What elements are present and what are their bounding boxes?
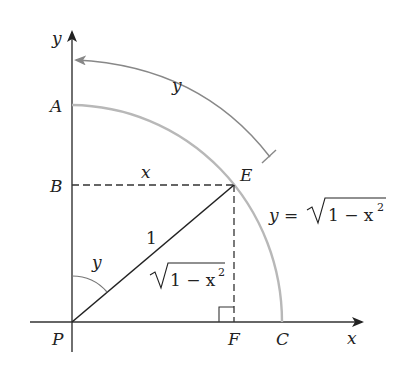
point-F-label: F [227, 329, 241, 349]
svg-text:2: 2 [377, 201, 384, 214]
arc-length-label: y [171, 75, 182, 95]
radius-label: 1 [146, 228, 157, 248]
angle-arc-P [72, 276, 107, 292]
point-A-label: A [48, 96, 62, 116]
point-P-label: P [51, 329, 64, 349]
segment-BE-label: x [141, 162, 151, 182]
right-angle-marker [219, 307, 234, 322]
point-B-label: B [49, 176, 63, 196]
segment-EF-label: 1 − x 2 [150, 263, 225, 290]
point-E-label: E [239, 165, 253, 185]
point-C-label: C [276, 329, 289, 349]
angle-P-label: y [91, 252, 102, 272]
quarter-circle-diagram: y x A B E P F C y x 1 y 1 − x 2 y = 1 − … [0, 0, 399, 374]
svg-text:2: 2 [218, 266, 225, 279]
y-axis-label: y [51, 28, 62, 48]
arc-length-endtick [262, 150, 276, 163]
svg-text:1 − x: 1 − x [328, 205, 374, 225]
svg-text:y =: y = [268, 205, 298, 225]
curve-equation-label: y = 1 − x 2 [268, 198, 386, 225]
svg-text:1 − x: 1 − x [170, 270, 216, 290]
x-axis-label: x [347, 328, 357, 348]
